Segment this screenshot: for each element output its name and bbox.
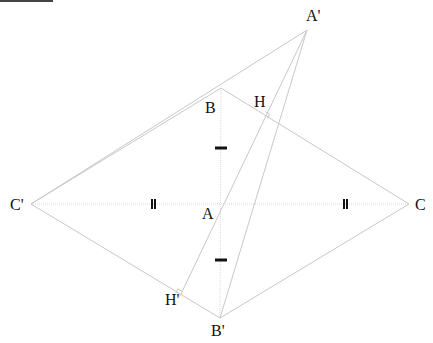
segment: [221, 88, 409, 204]
point-label: H: [254, 94, 266, 110]
point-label: B': [211, 323, 225, 339]
segment: [31, 204, 220, 318]
equal-tick-mark: [215, 259, 227, 262]
point-label: H': [165, 292, 179, 308]
dotted-segment: [220, 88, 221, 318]
point-label: A: [202, 206, 214, 222]
double-tick-mark: [346, 199, 348, 209]
point-label: B: [205, 100, 216, 116]
segment: [220, 30, 307, 318]
equal-tick-mark: [215, 147, 227, 150]
segment: [31, 88, 221, 204]
double-tick-mark: [343, 199, 345, 209]
segment: [220, 204, 409, 318]
double-tick-mark: [151, 199, 153, 209]
double-tick-mark: [154, 199, 156, 209]
point-label: A': [306, 8, 320, 24]
point-label: C: [415, 197, 426, 213]
geometry-diagram: [0, 0, 433, 343]
point-label: C': [10, 197, 24, 213]
